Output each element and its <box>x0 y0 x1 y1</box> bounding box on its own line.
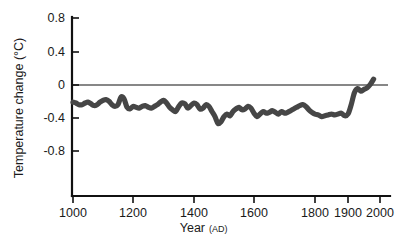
y-tick-label-3: -0.4 <box>43 111 65 125</box>
x-tick-label-3: 1600 <box>240 206 268 220</box>
y-tick-label-0: 0.8 <box>48 11 65 25</box>
temperature-line-chart: 0.8 0.4 0 -0.4 -0.8 1000 1200 1400 1600 … <box>0 0 412 237</box>
x-axis-title-era: (AD) <box>209 224 228 234</box>
x-tick-label-1: 1200 <box>119 206 147 220</box>
y-tick-label-1: 0.4 <box>48 45 65 59</box>
x-tick-label-6: 2000 <box>366 206 394 220</box>
chart-figure: 0.8 0.4 0 -0.4 -0.8 1000 1200 1400 1600 … <box>0 0 412 237</box>
y-tick-label-2: 0 <box>58 78 65 92</box>
y-axis-title: Temperature change (°C) <box>12 38 26 178</box>
x-axis-title: Year <box>180 221 205 235</box>
x-tick-label-0: 1000 <box>59 206 87 220</box>
x-tick-label-5: 1900 <box>334 206 362 220</box>
temperature-series-line <box>73 79 374 123</box>
x-tick-label-2: 1400 <box>180 206 208 220</box>
y-tick-label-4: -0.8 <box>43 144 65 158</box>
x-tick-label-4: 1800 <box>301 206 329 220</box>
